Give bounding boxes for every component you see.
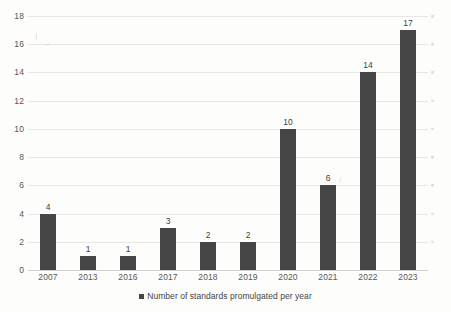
gridline <box>28 270 428 271</box>
scan-artifact-dot <box>431 212 434 215</box>
bar-group[interactable]: 17 <box>388 16 428 270</box>
bar[interactable] <box>360 72 376 270</box>
x-axis: 2007201320162017201820192020202120222023 <box>28 272 428 286</box>
x-tick-label: 2022 <box>348 272 388 282</box>
bar[interactable] <box>400 30 416 270</box>
bar[interactable] <box>240 242 256 270</box>
bar[interactable] <box>120 256 136 270</box>
y-tick-label: 6 <box>0 180 24 190</box>
bar[interactable] <box>280 129 296 270</box>
x-tick-label: 2023 <box>388 272 428 282</box>
bar-group[interactable]: 6 <box>308 16 348 270</box>
x-tick-label: 2020 <box>268 272 308 282</box>
scan-artifact-dot <box>431 15 434 18</box>
bar-value-label: 2 <box>206 230 211 240</box>
bar-value-label: 4 <box>46 202 51 212</box>
scan-artifact-dot <box>431 71 434 74</box>
x-tick-label: 2019 <box>228 272 268 282</box>
bar-group[interactable]: 4 <box>28 16 68 270</box>
y-tick-label: 10 <box>0 124 24 134</box>
x-tick-label: 2007 <box>28 272 68 282</box>
bar-value-label: 6 <box>326 173 331 183</box>
bar-group[interactable]: 14 <box>348 16 388 270</box>
bar[interactable] <box>320 185 336 270</box>
bar[interactable] <box>80 256 96 270</box>
plot-area: 4113221061417 <box>28 16 428 270</box>
bar-group[interactable]: 2 <box>228 16 268 270</box>
y-tick-label: 8 <box>0 152 24 162</box>
y-tick-label: 4 <box>0 209 24 219</box>
bar-chart-figure: 024681012141618 4113221061417 2007201320… <box>0 0 451 312</box>
bar-group[interactable]: 10 <box>268 16 308 270</box>
bars-layer: 4113221061417 <box>28 16 428 270</box>
x-tick-label: 2013 <box>68 272 108 282</box>
scan-artifact-edge-dots <box>428 16 438 270</box>
bar-value-label: 1 <box>126 244 131 254</box>
scan-artifact-dot <box>431 43 434 46</box>
bar-value-label: 10 <box>283 117 292 127</box>
y-tick-label: 14 <box>0 67 24 77</box>
y-tick-label: 18 <box>0 11 24 21</box>
x-tick-label: 2017 <box>148 272 188 282</box>
bar-value-label: 1 <box>86 244 91 254</box>
scan-artifact-dot <box>431 99 434 102</box>
scan-artifact-dot <box>431 156 434 159</box>
y-axis: 024681012141618 <box>0 16 24 270</box>
chart-legend: Number of standards promulgated per year <box>0 291 451 301</box>
y-tick-label: 16 <box>0 39 24 49</box>
bar-value-label: 14 <box>363 60 372 70</box>
bar[interactable] <box>200 242 216 270</box>
bar-group[interactable]: 1 <box>108 16 148 270</box>
bar[interactable] <box>40 214 56 270</box>
bar-value-label: 17 <box>403 18 412 28</box>
bar[interactable] <box>160 228 176 270</box>
legend-label: Number of standards promulgated per year <box>147 291 312 301</box>
scan-artifact-dot <box>431 184 434 187</box>
bar-value-label: 3 <box>166 216 171 226</box>
scan-artifact-dot <box>431 128 434 131</box>
x-tick-label: 2021 <box>308 272 348 282</box>
x-tick-label: 2018 <box>188 272 228 282</box>
legend-swatch-icon <box>139 294 144 299</box>
bar-group[interactable]: 3 <box>148 16 188 270</box>
y-tick-label: 0 <box>0 265 24 275</box>
y-tick-label: 2 <box>0 237 24 247</box>
bar-group[interactable]: 2 <box>188 16 228 270</box>
x-tick-label: 2016 <box>108 272 148 282</box>
scan-artifact-dot <box>431 241 434 244</box>
bar-group[interactable]: 1 <box>68 16 108 270</box>
y-tick-label: 12 <box>0 96 24 106</box>
bar-value-label: 2 <box>246 230 251 240</box>
